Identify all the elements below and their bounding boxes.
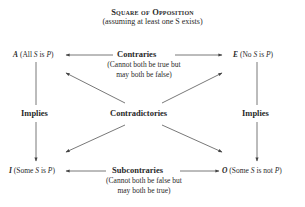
contraries-note-line1: (Cannot both be true but	[94, 60, 194, 70]
implies-right-label: Implies	[242, 108, 269, 118]
implies-left-label: Implies	[21, 108, 48, 118]
corner-i-mid: is	[39, 166, 48, 175]
corner-o: O (Some S is not P)	[222, 166, 282, 175]
corner-e: E (No S is P)	[233, 50, 273, 59]
contraries-note-line2: may both be false)	[94, 70, 194, 80]
corner-e-mid: is	[257, 50, 266, 59]
corner-o-mid: is not	[255, 166, 275, 175]
corner-a: A (All S is P)	[13, 50, 53, 59]
contradictories-label: Contradictories	[110, 108, 167, 118]
corner-e-text: (No	[238, 50, 253, 59]
corner-o-text: (Some	[227, 166, 250, 175]
subcontraries-label: Subcontraries	[112, 165, 163, 175]
corner-i-text: (Some	[12, 166, 35, 175]
contraries-label: Contraries	[117, 49, 156, 59]
corner-a-close: )	[51, 50, 54, 59]
corner-i: I (Some S is P)	[9, 166, 55, 175]
diagram-title: Square of Opposition	[0, 7, 305, 17]
subcontraries-note-line2: may both be true)	[94, 186, 194, 196]
corner-a-text: (All	[18, 50, 34, 59]
corner-e-close: )	[271, 50, 274, 59]
corner-i-close: )	[52, 166, 55, 175]
corner-o-close: )	[279, 166, 282, 175]
diagram-subtitle: (assuming at least one S exists)	[0, 17, 305, 26]
contraries-note: (Cannot both be true but may both be fal…	[94, 60, 194, 80]
subcontraries-note-line1: (Cannot both be false but	[94, 176, 194, 186]
subcontraries-note: (Cannot both be false but may both be tr…	[94, 176, 194, 196]
